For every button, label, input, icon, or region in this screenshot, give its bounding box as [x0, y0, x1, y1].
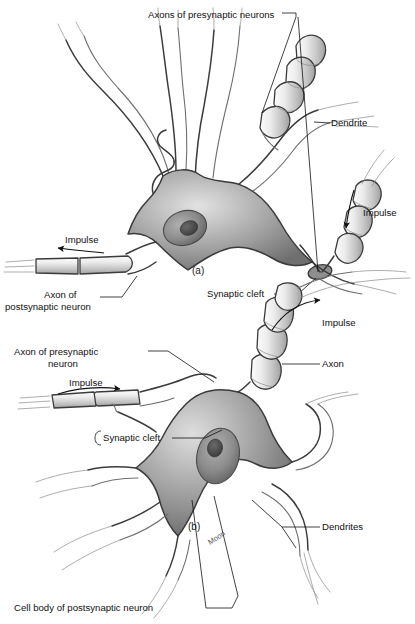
upper-neuron-dendrites — [58, 8, 378, 206]
label-impulse-right-lower: Impulse — [322, 317, 356, 328]
label-axon-of-presynaptic-neuron-line2: neuron — [48, 358, 78, 369]
label-axons-of-presynaptic-neurons: Axons of presynaptic neurons — [148, 9, 275, 20]
label-impulse-right-upper: Impulse — [363, 207, 397, 218]
label-dendrites: Dendrites — [322, 521, 363, 532]
panel-caption-b: (b) — [188, 521, 200, 532]
label-axon: Axon — [322, 358, 344, 369]
label-dendrite: Dendrite — [331, 117, 367, 128]
label-impulse-left-lower: Impulse — [69, 377, 103, 388]
neuron-diagram-canvas: Axons of presynaptic neurons Dendrite Im… — [0, 0, 415, 624]
neuron-synapse-figure: Axons of presynaptic neurons Dendrite Im… — [0, 0, 415, 624]
artist-signature: Moon — [206, 529, 227, 547]
upper-neuron-soma — [128, 170, 312, 270]
upper-postsynaptic-axon — [4, 242, 156, 274]
upper-presynaptic-terminal-chain-1 — [260, 35, 326, 150]
label-synaptic-cleft-lower: Synaptic cleft — [103, 432, 160, 443]
label-axon-of-postsynaptic-neuron-line2: postsynaptic neuron — [5, 301, 91, 312]
label-cell-body-of-postsynaptic-neuron: Cell body of postsynaptic neuron — [14, 602, 153, 613]
label-layer: Axons of presynaptic neurons Dendrite Im… — [5, 9, 397, 613]
label-impulse-left-upper: Impulse — [65, 234, 99, 245]
label-synaptic-cleft-upper: Synaptic cleft — [207, 288, 264, 299]
label-axon-of-postsynaptic-neuron-line1: Axon of — [44, 289, 77, 300]
lower-neuron-soma — [136, 390, 292, 536]
panel-caption-a: (a) — [192, 265, 204, 276]
panel-a-upper-neuron — [4, 8, 396, 297]
impulse-arrow-left-upper — [58, 248, 104, 253]
label-axon-of-presynaptic-neuron-line1: Axon of presynaptic — [14, 346, 98, 357]
